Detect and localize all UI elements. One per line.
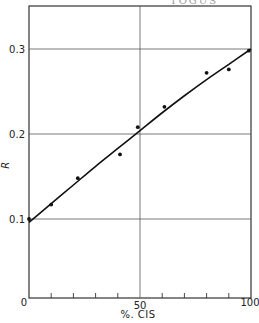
data-point (136, 125, 140, 129)
x-tick-label: 100 (240, 297, 259, 308)
x-tick-label: 0 (21, 297, 27, 308)
y-tick-label: 0.3 (9, 44, 25, 55)
data-point (49, 203, 53, 207)
y-tick-labels: 0.10.20.3 (9, 44, 25, 225)
grid-lines (29, 6, 251, 298)
data-point (76, 176, 80, 180)
data-point (118, 153, 122, 157)
data-point (227, 68, 231, 72)
data-point (163, 105, 167, 109)
y-tick-label: 0.2 (9, 129, 25, 140)
data-point (247, 49, 251, 53)
y-axis-title: R (0, 161, 11, 168)
chart: TOGUS 0.10.20.3 050100 %. CIS R (0, 0, 259, 323)
y-tick-label: 0.1 (9, 214, 25, 225)
header-fragment: TOGUS (170, 0, 218, 6)
data-point (205, 71, 209, 75)
x-axis-title: %. CIS (120, 309, 155, 320)
data-point (27, 217, 31, 221)
